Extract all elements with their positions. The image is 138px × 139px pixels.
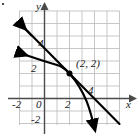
intersection-point-label: (2, 2) (76, 57, 100, 70)
y-tick-label-4: 4 (38, 37, 44, 49)
y-tick-label-neg2: -2 (31, 113, 41, 125)
graph-figure: -2 0 2 4 4 2 -2 x y (2, 2) (0, 0, 138, 139)
line-arrowhead-icon (20, 23, 33, 36)
x-tick-label-0: 0 (36, 98, 42, 110)
graph-canvas: -2 0 2 4 4 2 -2 x y (2, 2) (0, 0, 138, 139)
x-tick-label-neg2: -2 (12, 98, 22, 110)
y-axis-label: y (35, 0, 41, 12)
y-tick-label-2: 2 (31, 62, 37, 74)
intersection-point-marker (67, 71, 73, 77)
x-tick-label-2: 2 (65, 98, 71, 110)
x-tick-label-4: 4 (88, 84, 94, 96)
x-axis-label: x (125, 98, 131, 110)
